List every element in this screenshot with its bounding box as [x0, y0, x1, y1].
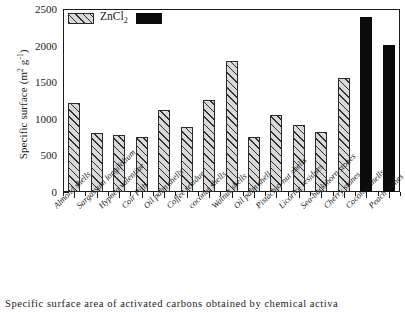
legend-swatch-zncl2 — [68, 13, 94, 24]
bar — [360, 17, 372, 192]
y-tick-label: 1500 — [17, 77, 57, 88]
x-tick-minor — [400, 192, 401, 196]
figure-caption: Specific surface area of activated carbo… — [5, 298, 403, 310]
y-axis-title-sup-mass: -1 — [16, 53, 25, 59]
y-tick-label: 500 — [17, 150, 57, 161]
legend-label-zncl2-sub: 2 — [124, 17, 128, 26]
bar — [226, 61, 238, 192]
y-tick-label: 2500 — [17, 4, 57, 15]
y-tick-label: 2000 — [17, 40, 57, 51]
y-tick-label: 1000 — [17, 113, 57, 124]
chart-legend: ZnCl2 — [68, 11, 162, 26]
y-axis-title-sup-area: 2 — [16, 68, 25, 72]
bar — [383, 45, 395, 192]
y-axis-title-mid: g — [17, 60, 29, 68]
legend-label-zncl2-base: ZnCl — [100, 10, 124, 22]
legend-label-zncl2: ZnCl2 — [100, 11, 128, 25]
figure-container: Specific surface (m2 g-1) 05001000150020… — [0, 0, 405, 312]
legend-swatch-solid — [136, 13, 162, 24]
y-tick-label: 0 — [17, 187, 57, 198]
